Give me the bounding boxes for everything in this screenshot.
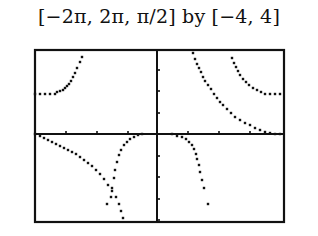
plot-point xyxy=(234,116,236,118)
plot-point xyxy=(171,133,173,135)
plot-series xyxy=(34,133,124,219)
plot-point xyxy=(106,203,108,205)
plot-point xyxy=(192,52,194,54)
plot-point xyxy=(115,196,117,198)
plot-point xyxy=(245,81,247,83)
plot-point xyxy=(194,58,196,60)
plot-point xyxy=(242,78,244,80)
plot-point xyxy=(274,133,276,135)
plot-series xyxy=(34,56,83,95)
plot-point xyxy=(226,108,228,110)
plot-point xyxy=(256,89,258,91)
plot-point xyxy=(76,67,78,69)
plot-point xyxy=(199,171,201,173)
plot-series xyxy=(192,52,281,135)
plot-point xyxy=(95,169,97,171)
plot-point xyxy=(110,196,112,198)
plot-point xyxy=(114,169,116,171)
plot-point xyxy=(185,138,187,140)
plot-point xyxy=(126,141,128,143)
plot-point xyxy=(259,129,261,131)
plot-point xyxy=(133,136,135,138)
plot-point xyxy=(118,203,120,205)
plot-point xyxy=(248,84,250,86)
calculator-graph xyxy=(0,0,318,236)
plot-point xyxy=(254,127,256,129)
plot-point xyxy=(202,76,204,78)
plot-point xyxy=(49,93,51,95)
plot-point xyxy=(200,71,202,73)
plot-point xyxy=(87,162,89,164)
plot-point xyxy=(120,149,122,151)
plot-point xyxy=(81,56,83,58)
plot-point xyxy=(39,135,41,137)
plot-point xyxy=(68,83,70,85)
plot-point xyxy=(34,133,36,135)
plot-point xyxy=(55,143,57,145)
plot-point xyxy=(264,93,266,95)
plot-series xyxy=(106,133,143,205)
plot-point xyxy=(196,63,198,65)
plot-point xyxy=(260,91,262,93)
plot-point xyxy=(213,93,215,95)
plot-point xyxy=(203,187,205,189)
plot-point xyxy=(279,93,281,95)
plot-point xyxy=(44,93,46,95)
plot-point xyxy=(123,144,125,146)
plot-point xyxy=(249,124,251,126)
plot-point xyxy=(137,134,139,136)
plot-point xyxy=(269,132,271,134)
plot-point xyxy=(70,80,72,82)
plot-point xyxy=(34,93,36,95)
plot-point xyxy=(75,153,77,155)
plot-point xyxy=(39,93,41,95)
plot-point xyxy=(43,137,45,139)
plot-point xyxy=(264,131,266,133)
plot-point xyxy=(129,138,131,140)
plot-point xyxy=(201,179,203,181)
plot-point xyxy=(71,151,73,153)
plot-series xyxy=(231,57,281,95)
plot-point xyxy=(116,161,118,163)
plot-point xyxy=(219,101,221,103)
plot-series xyxy=(171,133,209,205)
plot-point xyxy=(191,144,193,146)
plot-point xyxy=(252,87,254,89)
plot-point xyxy=(269,93,271,95)
plot-point xyxy=(120,210,122,212)
plot-point xyxy=(113,177,115,179)
plot-point xyxy=(79,61,81,63)
plot-point xyxy=(47,139,49,141)
plot-point xyxy=(111,187,113,189)
plot-point xyxy=(181,136,183,138)
plot-point xyxy=(83,159,85,161)
plot-point xyxy=(74,72,76,74)
plot-point xyxy=(230,112,232,114)
plot-point xyxy=(216,97,218,99)
plot-point xyxy=(51,141,53,143)
plot-point xyxy=(99,173,101,175)
plot-point xyxy=(195,153,197,155)
plot-point xyxy=(274,93,276,95)
plot-point xyxy=(204,80,206,82)
plot-point xyxy=(207,203,209,205)
plot-point xyxy=(198,67,200,69)
plot-point xyxy=(196,158,198,160)
plot-point xyxy=(59,145,61,147)
plot-point xyxy=(210,88,212,90)
plot-point xyxy=(239,74,241,76)
plot-point xyxy=(56,91,58,93)
plot-point xyxy=(111,190,113,192)
plot-point xyxy=(244,122,246,124)
plot-point xyxy=(176,135,178,137)
plot-point xyxy=(188,141,190,143)
plot-point xyxy=(207,84,209,86)
plot-point xyxy=(233,62,235,64)
plot-point xyxy=(231,57,233,59)
plot-point xyxy=(72,76,74,78)
plot-point xyxy=(79,156,81,158)
plot-point xyxy=(237,70,239,72)
plot-point xyxy=(235,66,237,68)
plot-point xyxy=(198,164,200,166)
plot-point xyxy=(141,133,143,135)
